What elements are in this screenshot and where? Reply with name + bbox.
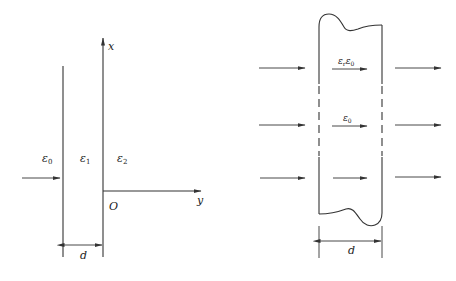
diagram-canvas: ε0 ε1 ε2 x y O d [0, 0, 456, 281]
y-axis-label: y [196, 194, 204, 207]
epsilon-0-inner-label: ε0 [343, 113, 352, 124]
slab-bottom-edge [319, 209, 382, 226]
thickness-label: d [80, 249, 87, 262]
epsilon-2-label: ε2 [117, 152, 127, 166]
origin-label: O [109, 200, 118, 213]
slab-top-edge [319, 14, 382, 31]
epsilon-1-label: ε1 [80, 152, 90, 166]
x-axis-label: x [108, 40, 115, 53]
thickness-label: d [348, 244, 355, 257]
left-figure: ε0 ε1 ε2 x y O d [22, 38, 204, 262]
epsilon-0-label: ε0 [42, 152, 52, 166]
right-figure: εrε0 ε0 d [259, 14, 441, 258]
epsilon-r-epsilon-0-label: εrε0 [338, 56, 355, 67]
